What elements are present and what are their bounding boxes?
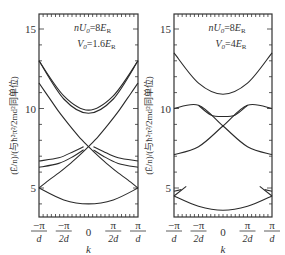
svg-text:0: 0 xyxy=(86,226,92,238)
svg-text:−π: −π xyxy=(33,219,45,231)
y-tick-label: 15 xyxy=(25,23,37,35)
band-curve-band1 xyxy=(39,188,138,204)
y-tick-label: 15 xyxy=(160,23,172,35)
band-curve-band3 xyxy=(199,105,248,116)
y-tick-label: 10 xyxy=(160,103,172,115)
svg-text:d: d xyxy=(172,233,178,244)
param-label-V0: V0=1.6ER xyxy=(77,38,116,51)
svg-text:−π: −π xyxy=(168,219,180,231)
svg-text:π: π xyxy=(245,219,251,231)
band-curve-band3b-r xyxy=(93,150,138,167)
y-tick-label: 5 xyxy=(166,182,172,194)
svg-text:0: 0 xyxy=(220,226,226,238)
x-tick-label: π2d xyxy=(105,219,121,244)
y-tick-label: 10 xyxy=(25,103,37,115)
x-tick-label: πd xyxy=(130,219,146,244)
svg-text:2d: 2d xyxy=(243,233,254,244)
svg-text:−π: −π xyxy=(58,219,70,231)
band-structure-figure: 51015−πd−π2d0π2dπdk(Ẽ/n)/(与ħ²π²/2md²同单位)… xyxy=(0,0,285,255)
x-tick-label: −π2d xyxy=(56,219,72,244)
svg-text:d: d xyxy=(270,233,276,244)
y-axis-label: (Ẽ/n)/(与ħ²π²/2md²同单位) xyxy=(8,76,19,175)
param-label-nU0: nU0=8ER xyxy=(74,22,111,35)
band-curve-band1 xyxy=(174,196,272,210)
svg-text:d: d xyxy=(136,233,142,244)
band-curve-band2 xyxy=(174,104,272,154)
svg-text:2d: 2d xyxy=(59,233,70,244)
param-label-nU0: nU0=8ER xyxy=(208,22,245,35)
svg-text:π: π xyxy=(269,219,275,231)
y-tick-label: 5 xyxy=(31,182,37,194)
x-tick-label: π2d xyxy=(240,219,256,244)
x-tick-label: −πd xyxy=(166,219,182,244)
panel-2: 51015−πd−π2d0π2dπdk(Ẽ/n)/(与ħ²π²/2md²同单位)… xyxy=(143,14,280,255)
band-curve-band3b xyxy=(39,150,84,168)
x-axis-label: k xyxy=(221,243,227,255)
x-axis-label: k xyxy=(86,243,92,255)
svg-text:−π: −π xyxy=(193,219,205,231)
band-curve-band2-left xyxy=(39,83,138,188)
svg-text:π: π xyxy=(110,219,116,231)
band-curve-band2-mirror xyxy=(174,104,272,154)
svg-text:2d: 2d xyxy=(108,233,119,244)
band-curve-band4 xyxy=(174,53,272,94)
panel-1: 51015−πd−π2d0π2dπdk(Ẽ/n)/(与ħ²π²/2md²同单位)… xyxy=(8,14,146,255)
x-tick-label: πd xyxy=(264,219,280,244)
x-tick-label: −πd xyxy=(31,219,47,244)
svg-text:d: d xyxy=(37,233,43,244)
x-tick-label: −π2d xyxy=(191,219,207,244)
param-label-V0: V0=4ER xyxy=(215,38,246,51)
svg-text:π: π xyxy=(135,219,141,231)
band-curve-band2-right xyxy=(39,83,138,188)
x-tick-label: 0 xyxy=(220,226,226,238)
svg-text:2d: 2d xyxy=(194,233,205,244)
y-axis-label: (Ẽ/n)/(与ħ²π²/2md²同单位) xyxy=(143,76,154,175)
x-tick-label: 0 xyxy=(86,226,92,238)
